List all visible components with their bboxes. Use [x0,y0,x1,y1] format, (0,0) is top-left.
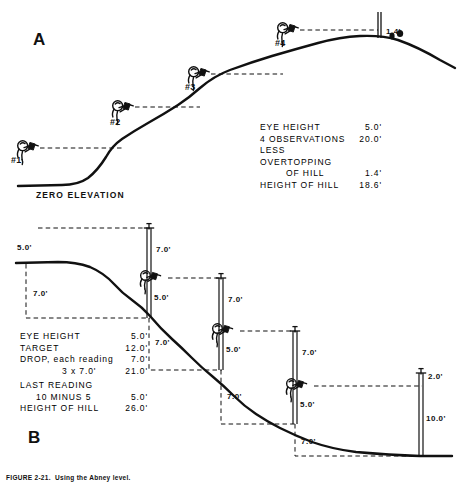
rod-above-label-b-3: 7.0' [302,348,317,357]
drop-label-b-0: 7.0' [33,289,48,298]
calc-a-value-4: 18.6' [348,180,382,192]
calc-b-value-0: 5.0' [118,331,148,343]
calc-block-b: EYE HEIGHT5.0' TARGET12.0' DROP, each re… [20,331,148,415]
calc-a-value-0: 5.0' [348,122,382,134]
calc-block-a: EYE HEIGHT5.0' 4 OBSERVATIONS20.0' LESS … [260,122,382,191]
calc-b-label-2: DROP, each reading [20,354,118,366]
calc-a-label-4: HEIGHT OF HILL [260,180,348,192]
eye-height-label-b: 5.0' [17,243,32,252]
calc-b-label-3: 3 x 7.0' [62,366,118,378]
calc-a-label-1: 4 OBSERVATIONS [260,134,348,146]
calc-b-label-6: HEIGHT OF HILL [20,403,118,415]
rod-b-2 [216,273,226,370]
figure-abney-level: .ground{fill:none;stroke:#111;stroke-wid… [0,0,463,483]
calc-b-value-1: 12.0' [118,343,148,355]
rod-label-hilltop-a: 1.4' [386,27,401,36]
calc-b-label-1: TARGET [20,343,118,355]
observer-label-3: #3 [185,82,196,92]
calc-a-label-3: OF HILL [286,168,348,180]
drop-label-b-1: 7.0' [155,338,170,347]
calc-b-label-0: EYE HEIGHT [20,331,118,343]
calc-b-value-5: 5.0' [118,392,148,404]
calc-b-label-5: 10 MINUS 5 [36,392,118,404]
rod-hilltop-a [378,12,381,38]
calc-a-label-0: EYE HEIGHT [260,122,348,134]
zero-elevation-label: ZERO ELEVATION [36,190,125,200]
calc-a-value-3: 1.4' [348,168,382,180]
drop-label-b-2: 7.0' [227,392,242,401]
terrain-profile-a [18,36,455,186]
observer-label-4: #4 [275,38,286,48]
rod-below-label-b-1: 5.0' [154,293,169,302]
rod-below-label-b-3: 5.0' [300,400,315,409]
figure-caption: FIGURE 2-21. Using the Abney level. [6,474,131,481]
rod-above-label-b-4: 2.0' [428,372,443,381]
panel-letter-b: B [28,428,40,448]
calc-b-value-2: 7.0' [118,354,148,366]
rod-above-label-b-1: 7.0' [156,245,171,254]
rod-below-label-b-2: 5.0' [226,345,241,354]
rod-below-label-b-4: 10.0' [426,414,446,423]
calc-a-label-2: LESS OVERTOPPING [260,145,348,168]
calc-a-value-1: 20.0' [348,134,382,146]
panel-letter-a: A [33,30,45,50]
rod-b-4 [416,368,426,456]
rod-b-3 [290,326,300,424]
calc-b-label-4: LAST READING [20,380,118,392]
calc-b-value-3: 21.0' [118,366,148,378]
calc-b-value-6: 26.0' [118,403,148,415]
rod-above-label-b-2: 7.0' [228,295,243,304]
observer-label-2: #2 [110,117,121,127]
observer-label-1: #1 [11,155,22,165]
drop-label-b-3: 7.0' [301,437,316,446]
